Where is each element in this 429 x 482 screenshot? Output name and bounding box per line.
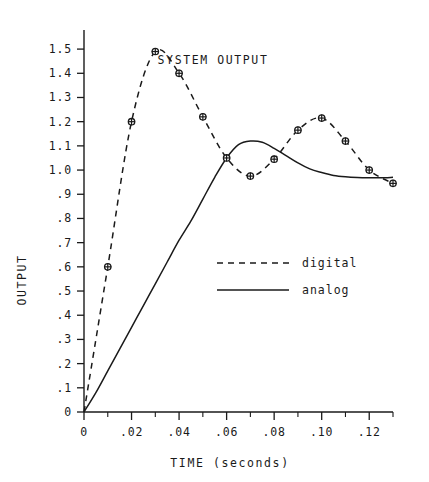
x-tick-label: .08	[263, 425, 286, 439]
x-tick-label: .04	[167, 425, 190, 439]
y-tick-label: .8	[57, 211, 72, 225]
series-line-analog	[84, 141, 393, 412]
y-tick-label: 1.4	[49, 66, 72, 80]
y-tick-label: 1.2	[49, 115, 72, 129]
y-tick-label: 0	[64, 405, 72, 419]
y-tick-label: .5	[57, 284, 72, 298]
x-tick-label: .12	[358, 425, 381, 439]
x-axis-tick-labels: 0.02.04.06.08.10.12	[80, 425, 381, 439]
x-axis-title: TIME (seconds)	[170, 456, 289, 470]
x-tick-label: 0	[80, 425, 88, 439]
series-markers-digital	[104, 48, 396, 271]
chart-figure: 0.1.2.3.4.5.6.7.8.91.01.11.21.31.41.5 0.…	[0, 0, 429, 482]
legend-label-digital: digital	[302, 256, 357, 270]
y-axis-tick-labels: 0.1.2.3.4.5.6.7.8.91.01.11.21.31.41.5	[49, 42, 72, 419]
legend-label-analog: analog	[302, 283, 350, 297]
y-tick-label: 1.5	[49, 42, 72, 56]
x-tick-label: .02	[120, 425, 143, 439]
y-tick-label: .3	[57, 332, 72, 346]
y-tick-label: 1.1	[49, 139, 72, 153]
y-tick-label: .4	[57, 308, 72, 322]
y-tick-label: .9	[57, 187, 72, 201]
x-tick-label: .10	[310, 425, 333, 439]
y-tick-label: .6	[57, 260, 72, 274]
y-tick-label: 1.0	[49, 163, 72, 177]
y-axis-ticks	[77, 49, 84, 412]
y-tick-label: .7	[57, 236, 72, 250]
y-axis-title: OUTPUT	[15, 254, 29, 305]
y-tick-label: .2	[57, 357, 72, 371]
chart-title: SYSTEM OUTPUT	[158, 53, 269, 67]
y-tick-label: 1.3	[49, 90, 72, 104]
series-line-digital	[84, 50, 393, 412]
x-tick-label: .06	[215, 425, 238, 439]
plot-axes	[84, 30, 393, 412]
y-tick-label: .1	[57, 381, 72, 395]
x-axis-ticks	[84, 412, 393, 420]
legend: digital analog	[217, 256, 357, 297]
